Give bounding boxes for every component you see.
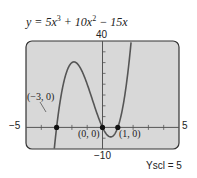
point-label-1: (1, 0) [119,128,141,139]
x-min-label: −5 [9,120,20,131]
intercept-dot [100,125,105,130]
point-label-origin: (0, 0) [78,128,100,139]
y-max-label: 40 [96,29,107,40]
x-max-label: 5 [182,120,188,131]
yscl-label: Yscl = 5 [146,160,182,171]
y-min-label: −10 [94,150,111,161]
point-label-neg3: (−3, 0) [27,91,54,102]
intercept-dot [54,125,59,130]
